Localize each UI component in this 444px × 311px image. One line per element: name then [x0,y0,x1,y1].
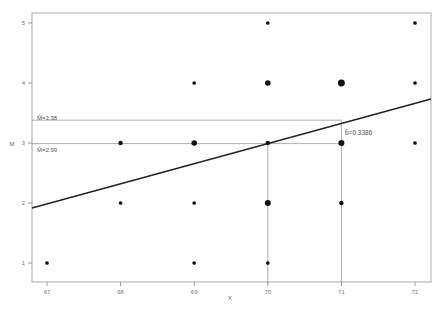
data-point [338,140,344,146]
data-point [266,261,270,265]
reference-lines [32,120,341,282]
x-tick-label: 72 [412,289,419,295]
x-tick-label: 68 [117,289,124,295]
y-tick-label: 2 [22,200,26,206]
slope-label: b̂=0.3386 [345,129,373,136]
data-point [338,80,345,87]
x-tick-label: 70 [264,289,271,295]
y-tick-label: 5 [22,20,26,26]
regression-line [32,99,431,208]
data-point [265,200,271,206]
data-point [45,261,49,265]
data-point [266,21,270,25]
mean-low-label: M̂=2.99 [37,147,58,153]
data-point [192,261,196,265]
data-point [192,81,196,85]
fitted-line [32,99,431,208]
data-point [191,140,197,146]
x-axis: 676869707172 [44,282,419,295]
annotations: M̂=3.38 M̂=2.99 b̂=0.3386 [37,115,373,153]
x-tick-label: 67 [44,289,51,295]
data-point [266,141,270,145]
data-point [413,21,417,25]
x-axis-label: X [228,295,232,301]
y-tick-label: 3 [22,140,26,146]
data-point [118,141,122,145]
y-tick-label: 4 [22,80,26,86]
scatter-chart: 676869707172 12345 M̂=3.38 M̂=2.99 b̂=0.… [0,0,444,311]
data-point [339,201,343,205]
data-point [192,201,196,205]
data-point [119,201,123,205]
data-point [413,81,417,85]
y-axis-label: M [10,141,15,147]
plot-frame [32,13,431,282]
mean-high-label: M̂=3.38 [37,115,58,121]
x-tick-label: 69 [191,289,198,295]
data-point [265,80,271,86]
y-tick-label: 1 [22,260,26,266]
y-axis: 12345 [22,20,32,266]
data-points [45,21,417,265]
x-tick-label: 71 [338,289,345,295]
data-point [413,141,417,145]
